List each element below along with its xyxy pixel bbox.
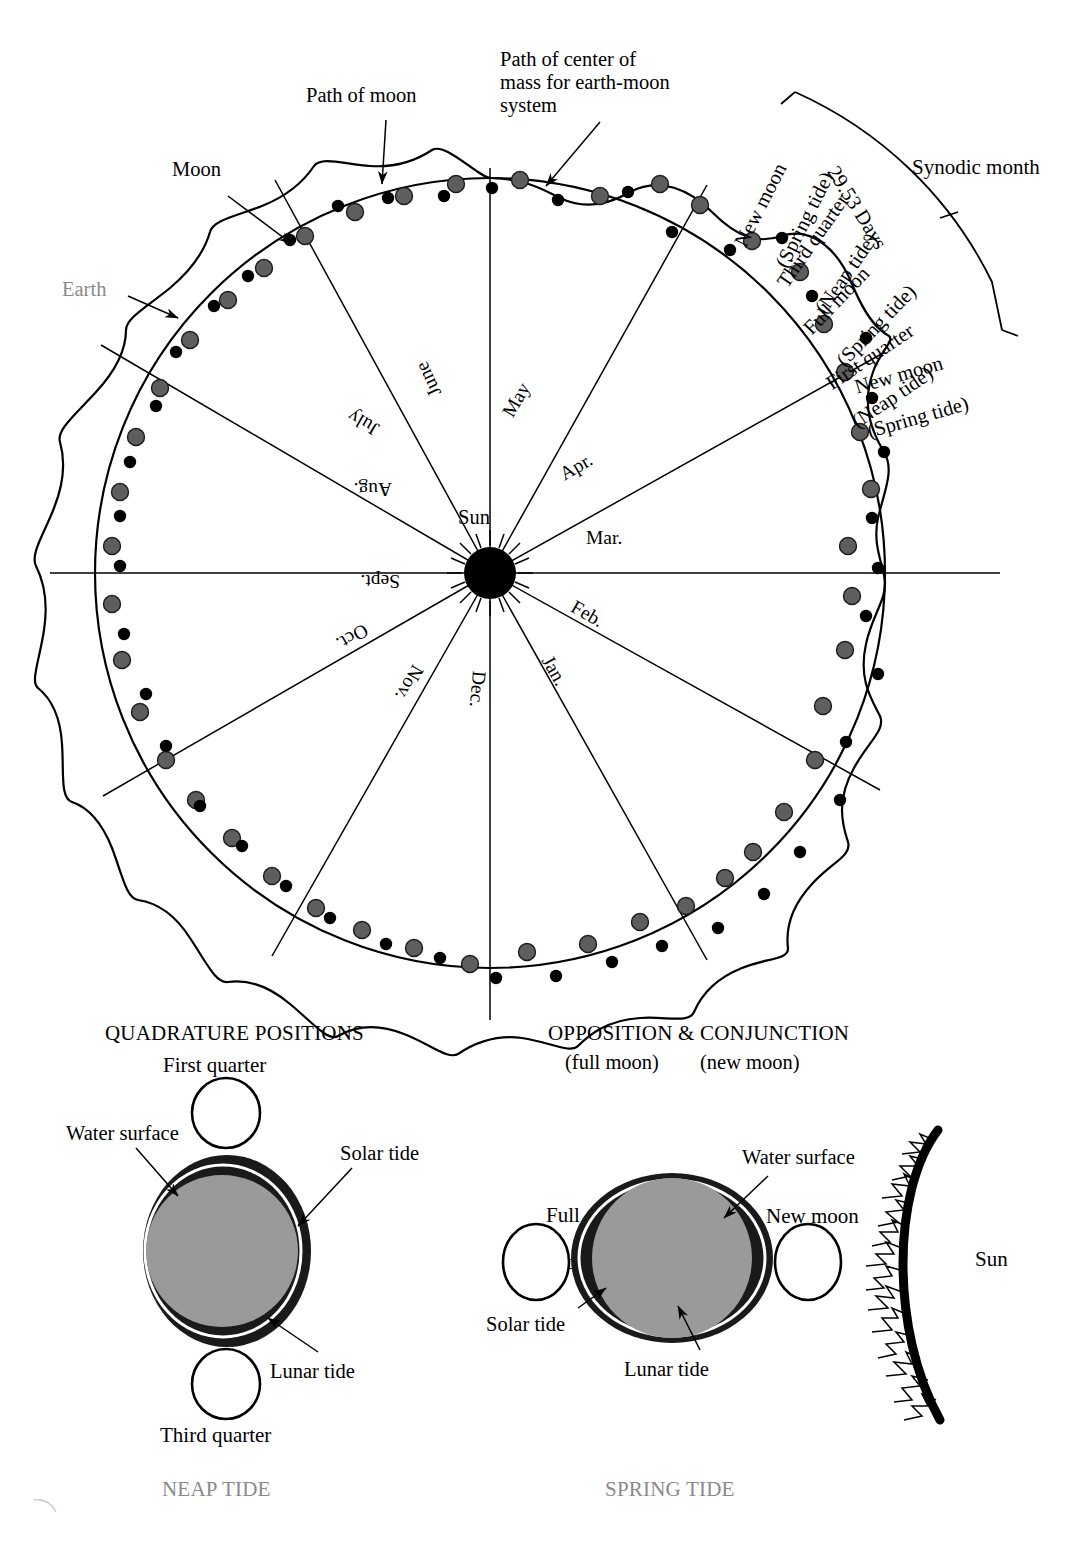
scan-artifact — [0, 0, 1091, 1542]
figure-root: Path of moon Path of center of mass for … — [0, 0, 1091, 1542]
